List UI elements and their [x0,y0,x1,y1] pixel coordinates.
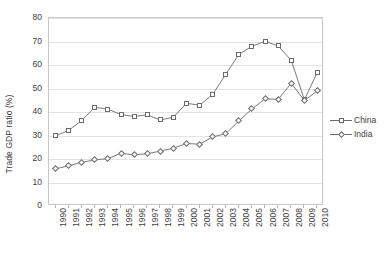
x-axis-tick-label: 1995 [124,208,134,227]
x-axis-tick-label: 1997 [150,208,160,227]
x-axis-tick-label: 2006 [268,208,278,227]
legend-marker-diamond-icon [330,129,352,139]
legend-label: India [352,129,372,139]
x-axis-tick-label: 1993 [97,208,107,227]
x-axis-tick-label: 2001 [202,208,212,227]
x-axis-tick-label: 1992 [84,208,94,227]
x-axis-tick-label: 2000 [189,208,199,227]
x-axis-tick-label: 2004 [241,208,251,227]
x-axis-tick-label: 1999 [176,208,186,227]
x-axis-tick-label: 1996 [137,208,147,227]
x-axis-tick-label: 2008 [294,208,304,227]
y-axis-title-text: Trade GDP ratio (%) [4,94,14,173]
x-axis-tick-label: 1994 [110,208,120,227]
x-axis-tick-label: 2003 [228,208,238,227]
legend-marker-square-icon [330,115,352,125]
x-axis-tick-label: 2002 [215,208,225,227]
legend-label: China [352,115,376,125]
x-axis-tick-label: 2007 [281,208,291,227]
x-axis-tick-label: 2005 [254,208,264,227]
x-axis-tick-label: 1998 [163,208,173,227]
plot-area [48,17,323,205]
x-axis-tick-label: 1990 [58,208,68,227]
chart-legend: ChinaIndia [330,113,376,141]
legend-item-india: India [330,127,376,141]
legend-item-china: China [330,113,376,127]
chart-root: Trade GDP ratio (%) 01020304050607080 19… [0,0,384,267]
series-line-india [49,18,324,206]
x-axis-tick-label: 1991 [71,208,81,227]
y-axis-title: Trade GDP ratio (%) [2,0,16,267]
x-axis-tick-labels: 1990199119921993199419951996199719981999… [48,208,323,258]
series-layer [49,18,322,204]
x-axis-tick-label: 2010 [320,208,330,227]
x-axis-tick-label: 2009 [307,208,317,227]
